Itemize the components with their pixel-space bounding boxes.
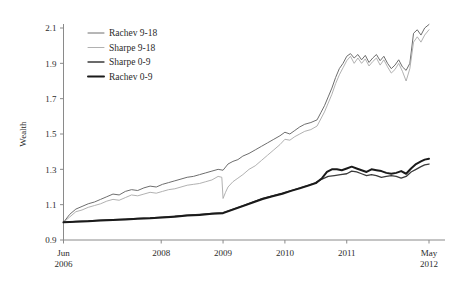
legend-label-rachev-0-9: Rachev 0-9 [109,72,153,82]
x-tick-label: 2008 [152,248,171,258]
x-tick-label-year: 2006 [55,259,74,269]
chart-canvas: 0.91.11.31.51.71.92.1 Jun200620082009201… [0,0,454,288]
chart-legend: Rachev 9-18Sharpe 9-18Sharpe 0-9Rachev 0… [88,28,158,82]
legend-label-sharpe-0-9: Sharpe 0-9 [109,57,151,67]
y-tick-label: 1.9 [45,59,57,69]
y-axis-title-text: Wealth [18,121,28,147]
x-tick-label: Jun [57,248,70,258]
series-line-sharpe-0-9 [64,164,430,222]
y-tick-label: 2.1 [45,23,56,33]
x-tick-label: 2010 [276,248,295,258]
y-axis-title: Wealth [18,121,28,147]
y-tick-label: 1.3 [45,165,57,175]
y-tick-label: 1.5 [45,129,57,139]
x-tick-label-year: 2012 [420,259,438,269]
y-tick-label: 0.9 [45,235,57,245]
x-tick-label: 2009 [214,248,233,258]
wealth-chart: 0.91.11.31.51.71.92.1 Jun200620082009201… [0,0,454,288]
legend-label-rachev-9-18: Rachev 9-18 [109,28,158,38]
x-tick-label: 2011 [338,248,356,258]
x-tick-labels: Jun20062008200920102011May2012 [55,248,439,269]
legend-label-sharpe-9-18: Sharpe 9-18 [109,43,155,53]
y-tick-labels: 0.91.11.31.51.71.92.1 [45,23,57,245]
y-tick-label: 1.1 [45,200,56,210]
series-lines [64,24,430,222]
series-line-rachev-0-9 [64,159,430,223]
x-tick-label: May [421,248,438,258]
y-tick-label: 1.7 [45,94,57,104]
series-line-rachev-9-18 [64,24,430,222]
